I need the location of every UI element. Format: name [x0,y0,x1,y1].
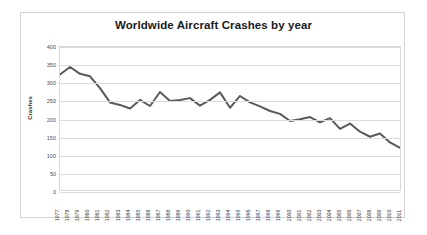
y-tick-label: 0 [36,189,56,195]
x-tick-label: 2000 [286,209,291,221]
gridline-300 [60,83,400,84]
gridline-100 [60,156,400,157]
x-tick-label: 2004 [326,209,331,221]
x-tick-label: 1980 [85,209,90,221]
x-tick-label: 2002 [306,209,311,221]
x-tick-label: 1983 [115,209,120,221]
x-tick-label: 1978 [65,209,70,221]
plot-area: 400350300250200150100500 [59,46,401,191]
x-tick-label: 1985 [135,209,140,221]
x-tick-label: 1990 [186,209,191,221]
x-axis-labels: 1977197819791980198119821983198419851986… [59,193,401,221]
gridline-50 [60,174,400,175]
y-tick-label: 150 [36,135,56,141]
y-tick-label: 50 [36,171,56,177]
x-tick-label: 1995 [236,209,241,221]
x-tick-label: 2008 [367,209,372,221]
y-tick-label: 300 [36,80,56,86]
x-tick-label: 2003 [316,209,321,221]
x-tick-label: 2007 [357,209,362,221]
x-tick-label: 1998 [266,209,271,221]
y-axis-title: Crashes [27,86,33,130]
x-tick-label: 1977 [55,209,60,221]
x-tick-label: 1982 [105,209,110,221]
x-tick-label: 1986 [145,209,150,221]
x-tick-label: 2005 [337,209,342,221]
series-line [60,67,400,148]
gridline-400 [60,47,400,48]
x-tick-label: 1988 [166,209,171,221]
x-tick-label: 2006 [347,209,352,221]
chart-frame: Worldwide Aircraft Crashes by year Crash… [20,12,405,218]
gridline-200 [60,120,400,121]
y-tick-label: 350 [36,62,56,68]
x-tick-label: 2011 [397,210,402,221]
x-tick-label: 1992 [206,209,211,221]
x-tick-label: 2001 [296,209,301,221]
x-tick-label: 2009 [377,209,382,221]
x-tick-label: 1987 [155,209,160,221]
gridline-350 [60,65,400,66]
x-tick-label: 1997 [256,209,261,221]
chart-figure: Worldwide Aircraft Crashes by year Crash… [0,0,427,235]
x-tick-label: 1994 [226,209,231,221]
y-tick-label: 400 [36,44,56,50]
x-tick-label: 1999 [276,209,281,221]
crashes-line-series [60,47,400,190]
x-tick-label: 1991 [196,209,201,221]
x-tick-label: 1996 [246,209,251,221]
gridline-150 [60,138,400,139]
x-tick-label: 1981 [95,209,100,221]
x-tick-label: 1993 [216,209,221,221]
x-tick-label: 2010 [387,209,392,221]
x-tick-label: 1989 [176,209,181,221]
y-tick-label: 100 [36,153,56,159]
gridline-250 [60,101,400,102]
x-tick-label: 1979 [75,209,80,221]
y-tick-label: 200 [36,117,56,123]
chart-title: Worldwide Aircraft Crashes by year [21,19,406,31]
x-tick-label: 1984 [125,209,130,221]
y-tick-label: 250 [36,98,56,104]
